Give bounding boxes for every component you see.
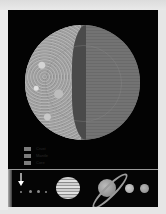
legend-swatch xyxy=(24,161,31,165)
legend: Crust Mantle Core xyxy=(24,145,48,166)
planet-venus xyxy=(29,190,32,193)
legend-item: Mantle xyxy=(24,152,48,159)
planet-mars xyxy=(45,191,47,193)
legend-label: Crust xyxy=(36,147,46,151)
sun-edge xyxy=(8,170,12,207)
planet-cross-section xyxy=(25,25,140,140)
planet-mercury xyxy=(20,191,22,193)
legend-item: Crust xyxy=(24,145,48,152)
figure-panel: Crust Mantle Core xyxy=(8,10,158,169)
inner-core-outline xyxy=(45,45,122,122)
legend-swatch xyxy=(24,154,31,158)
left-margin xyxy=(0,10,8,210)
top-bar xyxy=(0,0,166,10)
planet-earth xyxy=(37,190,40,193)
planet-neptune xyxy=(140,184,149,193)
planet-saturn xyxy=(88,170,128,207)
planet-uranus xyxy=(125,184,134,193)
legend-swatch xyxy=(24,147,31,151)
solar-system-strip xyxy=(8,170,158,207)
arrow-down-icon xyxy=(18,173,24,187)
legend-label: Mantle xyxy=(36,154,48,158)
planet-jupiter xyxy=(56,177,80,199)
legend-item: Core xyxy=(24,159,48,166)
legend-label: Core xyxy=(36,161,45,165)
